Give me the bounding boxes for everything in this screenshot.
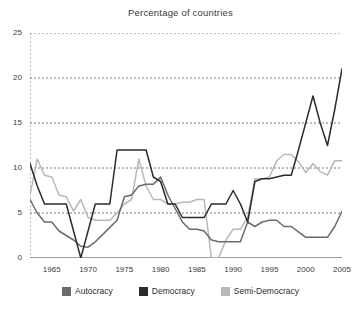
x-tick-label-1985: 1985 [182,265,212,274]
legend-swatch-icon [221,287,230,296]
legend-item-semi-democracy[interactable]: Semi-Democracy [221,286,299,296]
x-tick-label-1970: 1970 [73,265,103,274]
x-tick-label-1990: 1990 [218,265,248,274]
chart-legend: AutocracyDemocracySemi-Democracy [0,286,361,296]
plot-area [30,33,342,258]
chart-figure: Percentage of countries 2520151050 19651… [0,0,361,317]
x-tick-label-2000: 2000 [291,265,321,274]
y-tick-label-25: 25 [2,28,22,37]
x-tick-label-1975: 1975 [109,265,139,274]
plot-svg [30,33,342,258]
legend-item-democracy[interactable]: Democracy [139,286,195,296]
series-line-autocracy [30,177,342,247]
x-tick-label-1965: 1965 [37,265,67,274]
x-tick-label-2005: 2005 [327,265,357,274]
legend-swatch-icon [62,287,71,296]
legend-item-autocracy[interactable]: Autocracy [62,286,113,296]
legend-label: Semi-Democracy [234,286,299,296]
y-tick-label-5: 5 [2,208,22,217]
y-tick-label-15: 15 [2,118,22,127]
legend-swatch-icon [139,287,148,296]
y-tick-label-0: 0 [2,253,22,262]
x-tick-label-1980: 1980 [146,265,176,274]
legend-label: Autocracy [75,286,113,296]
chart-title: Percentage of countries [0,7,361,18]
x-tick-label-1995: 1995 [254,265,284,274]
y-tick-label-20: 20 [2,73,22,82]
legend-label: Democracy [152,286,195,296]
y-tick-label-10: 10 [2,163,22,172]
